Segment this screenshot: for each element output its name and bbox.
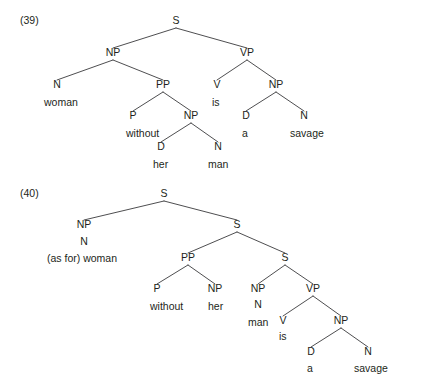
branch-s-np: [113, 28, 176, 48]
branch-vp-v: [217, 60, 247, 80]
terminal-man-40: man: [248, 316, 269, 328]
branch-s-vp: [176, 28, 247, 48]
syntax-tree-figure: (39)SNPVPNPPVNPPNPDNDNwomaniswithoutasav…: [0, 0, 422, 384]
branch-vp-np: [247, 60, 276, 80]
terminal-her: her: [153, 158, 169, 170]
s-root: S: [172, 14, 179, 26]
terminal-a-40: a: [307, 362, 313, 374]
example-number-1: (40): [20, 187, 39, 199]
s-root-40: S: [160, 187, 167, 199]
np-her-40: NP: [208, 282, 223, 294]
branch40-smid-pp: [188, 232, 237, 253]
branch-npobj-d: [246, 92, 276, 111]
np-object: NP: [269, 78, 284, 90]
branch-np-n: [57, 60, 113, 80]
terminal-savage: savage: [290, 127, 324, 139]
np-object-40: NP: [334, 314, 349, 326]
branch-np-pp: [113, 60, 163, 80]
terminal-as-for-woman: (as for) woman: [47, 252, 117, 264]
p-without: P: [129, 109, 136, 121]
v-is: V: [213, 78, 220, 90]
vp-predicate: VP: [240, 46, 254, 58]
n-topic-40: N: [80, 235, 88, 247]
branch40-s-np: [84, 201, 164, 220]
s-mid-40: S: [233, 218, 240, 230]
np-subject: NP: [106, 46, 121, 58]
n-savage-40: N: [364, 345, 372, 357]
branch40-s-smid: [164, 201, 237, 220]
branch40-vp-v: [283, 296, 313, 316]
branch-nphermn-d: [161, 123, 191, 142]
np-her-man: NP: [184, 109, 199, 121]
np-topic-40: NP: [77, 218, 92, 230]
pp-without-40: PP: [181, 251, 195, 263]
terminal-savage-40: savage: [354, 362, 388, 374]
syntax-tree-canvas: (39)SNPVPNPPVNPPNPDNDNwomaniswithoutasav…: [0, 0, 422, 384]
d-a-40: D: [307, 345, 315, 357]
pp-without: PP: [156, 78, 170, 90]
terminal-is-40: is: [279, 330, 287, 342]
v-is-40: V: [279, 314, 286, 326]
branch40-vp-np: [313, 296, 341, 316]
n-man: N: [214, 140, 222, 152]
vp-40: VP: [306, 282, 320, 294]
n-woman: N: [53, 78, 61, 90]
np-man-40: NP: [251, 282, 266, 294]
d-a: D: [242, 109, 250, 121]
terminal-without: without: [125, 127, 159, 139]
terminal-her-40: her: [208, 300, 224, 312]
terminal-a: a: [242, 127, 248, 139]
n-savage: N: [300, 109, 308, 121]
example-40: (40)SNPSNPPSPNPNPVPNVNPDN(as for) womanw…: [20, 187, 388, 374]
branch40-smid-slow: [237, 232, 285, 253]
p-without-40: P: [153, 282, 160, 294]
terminal-man: man: [208, 158, 229, 170]
branch40-np-d: [311, 328, 341, 347]
d-her: D: [157, 140, 165, 152]
example-39: (39)SNPVPNPPVNPPNPDNDNwomaniswithoutasav…: [20, 14, 324, 170]
n-man-40: N: [254, 298, 262, 310]
terminal-without-40: without: [149, 300, 183, 312]
branch40-pp-p: [157, 265, 188, 284]
example-number-0: (39): [20, 14, 39, 26]
terminal-is: is: [212, 96, 220, 108]
s-lower-40: S: [281, 251, 288, 263]
branch-pp-p: [133, 92, 163, 111]
terminal-woman: woman: [43, 96, 78, 108]
